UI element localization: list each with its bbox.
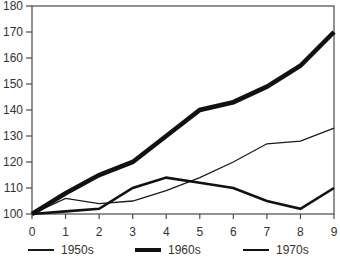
legend-item-1970s: 1970s [243, 241, 309, 259]
y-tick-label: 120 [3, 155, 23, 169]
line-chart: 1001101201301401501601701800123456789 19… [0, 0, 340, 261]
series-1970s-line [32, 178, 334, 214]
legend-label-1950s: 1950s [61, 241, 94, 259]
legend-item-1950s: 1950s [28, 241, 94, 259]
x-tick-label: 7 [264, 225, 271, 239]
x-tick-label: 6 [230, 225, 237, 239]
x-tick-label: 5 [196, 225, 203, 239]
y-tick-label: 150 [3, 77, 23, 91]
x-tick-label: 4 [163, 225, 170, 239]
y-tick-label: 140 [3, 103, 23, 117]
x-tick-label: 3 [129, 225, 136, 239]
series-1950s-line [32, 128, 334, 214]
x-tick-label: 8 [297, 225, 304, 239]
x-tick-label: 9 [331, 225, 338, 239]
y-tick-label: 170 [3, 25, 23, 39]
medium-line-swatch [243, 249, 269, 252]
x-tick-label: 2 [96, 225, 103, 239]
y-tick-label: 160 [3, 51, 23, 65]
legend-label-1970s: 1970s [276, 241, 309, 259]
thin-line-swatch [28, 249, 54, 250]
series-1960s-line [32, 32, 334, 214]
legend: 1950s 1960s 1970s [0, 241, 340, 261]
x-tick-label: 1 [62, 225, 69, 239]
plot-border [32, 6, 334, 214]
y-tick-label: 110 [4, 181, 23, 195]
y-tick-label: 180 [3, 0, 23, 13]
legend-item-1960s: 1960s [135, 241, 201, 259]
x-tick-label: 0 [29, 225, 36, 239]
plot-area: 1001101201301401501601701800123456789 [0, 0, 340, 242]
thick-line-swatch [135, 248, 161, 253]
y-tick-label: 130 [3, 129, 23, 143]
legend-label-1960s: 1960s [168, 241, 201, 259]
y-tick-label: 100 [3, 207, 23, 221]
